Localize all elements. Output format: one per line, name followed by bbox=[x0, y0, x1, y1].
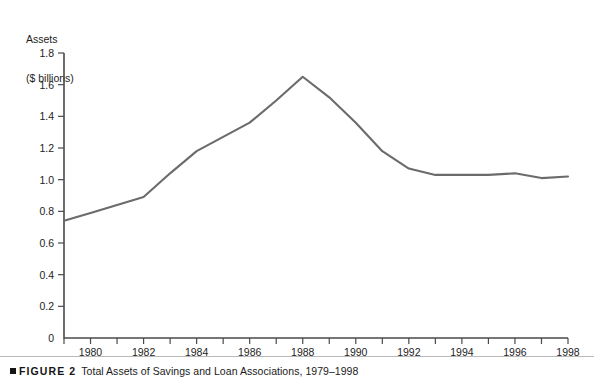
y-axis-tick-label: 1.0 bbox=[24, 174, 54, 186]
y-axis-tick-label: 1.2 bbox=[24, 142, 54, 154]
chart-axes bbox=[64, 53, 568, 338]
figure-title: Total Assets of Savings and Loan Associa… bbox=[81, 365, 358, 377]
y-axis-tick-label: 0.6 bbox=[24, 237, 54, 249]
black-square-icon bbox=[10, 368, 16, 374]
y-axis-tick-label: 1.4 bbox=[24, 110, 54, 122]
y-axis-tick-label: 1.6 bbox=[24, 79, 54, 91]
data-line-total-assets bbox=[64, 77, 568, 221]
plot-area bbox=[0, 0, 594, 355]
y-axis-tick-label: 0.2 bbox=[24, 300, 54, 312]
line-chart bbox=[0, 0, 594, 355]
y-axis-tick-label: 0 bbox=[24, 332, 54, 344]
y-axis-tick-label: 0.4 bbox=[24, 269, 54, 281]
figure-label: FIGURE 2 bbox=[19, 365, 76, 377]
y-axis-tick-label: 0.8 bbox=[24, 205, 54, 217]
y-axis-tick-label: 1.8 bbox=[24, 47, 54, 59]
figure-container: Assets ($ billions) 00.20.40.60.81.01.21… bbox=[0, 0, 594, 382]
figure-caption: FIGURE 2 Total Assets of Savings and Loa… bbox=[0, 360, 594, 382]
caption-divider bbox=[0, 356, 594, 357]
